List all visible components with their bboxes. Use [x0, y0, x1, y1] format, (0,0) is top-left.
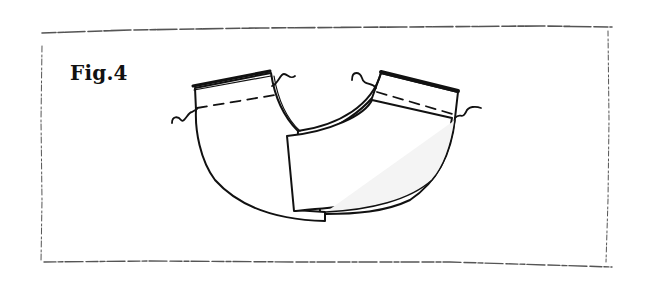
front-panel — [287, 100, 455, 212]
figure-canvas: Fig.4 — [0, 0, 652, 281]
figure-label: Fig.4 — [70, 61, 128, 85]
wavy-mark-icon — [455, 107, 481, 118]
wavy-mark-icon — [272, 74, 295, 86]
wavy-mark-icon — [172, 109, 197, 123]
diagram-svg — [0, 0, 652, 281]
wavy-mark-icon — [352, 73, 376, 88]
